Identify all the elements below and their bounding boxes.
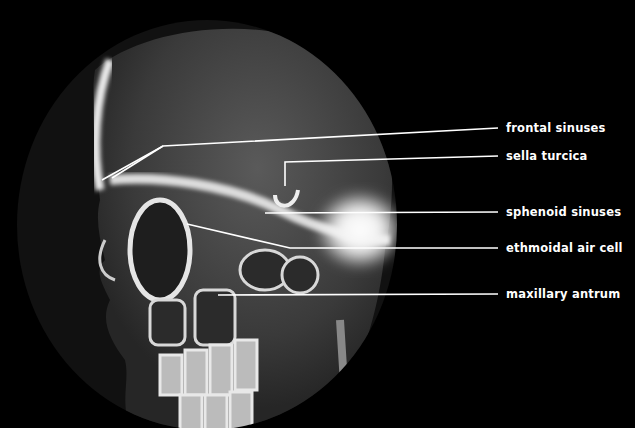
label-sella-turcica: sella turcica bbox=[506, 149, 588, 163]
leader-maxillary-antrum bbox=[218, 294, 498, 295]
label-frontal-sinuses: frontal sinuses bbox=[506, 121, 606, 135]
label-maxillary-antrum: maxillary antrum bbox=[506, 287, 620, 301]
leader-sphenoid-sinuses bbox=[265, 212, 498, 213]
label-ethmoidal-air-cell: ethmoidal air cell bbox=[506, 241, 623, 255]
label-sphenoid-sinuses: sphenoid sinuses bbox=[506, 205, 621, 219]
